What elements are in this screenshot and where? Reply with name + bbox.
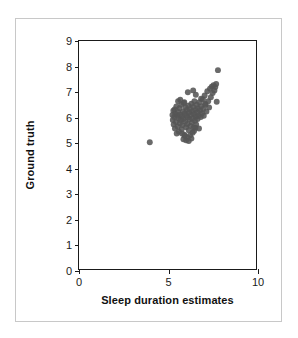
y-axis-title: Ground truth [24,120,36,189]
y-axis-tick-label: 1 [66,240,72,251]
y-axis-tick-label: 6 [66,112,72,123]
y-axis-tick [75,143,79,144]
data-point [192,125,198,131]
data-point [147,139,153,145]
y-axis-tick [75,194,79,195]
y-axis-tick [75,41,79,42]
y-axis-tick-label: 3 [66,189,72,200]
x-axis-tick-label: 10 [252,277,264,288]
plot-area: 01234567890510 [78,40,257,270]
data-point [179,130,185,136]
y-axis-tick-label: 5 [66,138,72,149]
data-point [188,136,194,142]
x-axis-tick-label: 0 [76,277,82,288]
y-axis-tick-label: 4 [66,163,72,174]
y-axis-tick [75,245,79,246]
y-axis-tick-label: 7 [66,87,72,98]
scatter-plot-figure: 01234567890510 Ground truth Sleep durati… [0,0,298,338]
data-point [198,96,204,102]
data-point [214,99,220,105]
data-point [213,81,219,87]
data-point [215,67,221,73]
x-axis-tick [258,269,259,274]
data-point [193,92,199,98]
x-axis-tick [79,269,80,274]
x-axis-title: Sleep duration estimates [78,294,257,306]
y-axis-tick [75,118,79,119]
y-axis-tick [75,169,79,170]
y-axis-tick-label: 0 [66,266,72,277]
data-point [202,101,208,107]
y-axis-tick-label: 8 [66,61,72,72]
data-point [180,136,186,142]
y-axis-tick-label: 9 [66,36,72,47]
x-axis-tick-label: 5 [165,277,171,288]
data-point [185,89,191,95]
y-axis-tick-label: 2 [66,214,72,225]
y-axis-tick [75,220,79,221]
y-axis-tick [75,92,79,93]
y-axis-tick [75,67,79,68]
x-axis-tick [169,269,170,274]
data-point [175,98,181,104]
scatter-points-layer [79,41,256,269]
